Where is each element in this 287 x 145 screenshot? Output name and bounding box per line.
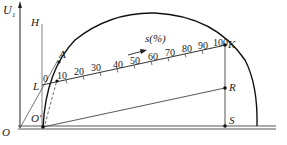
u1-subscript: 1 — [12, 11, 16, 19]
line-oprime-to-r — [43, 88, 225, 127]
tick-label-80: 80 — [182, 43, 192, 54]
baseline — [18, 126, 276, 129]
tick-label-40: 40 — [113, 59, 123, 70]
slip-scale — [42, 45, 226, 87]
point-scale-mark — [55, 79, 58, 82]
tick-label-20: 20 — [74, 66, 84, 77]
point-a — [58, 61, 61, 64]
u1-axis — [18, 1, 22, 128]
point-k — [223, 43, 227, 47]
tick-label-50: 50 — [130, 55, 140, 66]
a-label: A — [58, 48, 66, 60]
point-r — [223, 86, 227, 90]
s-label: S — [229, 114, 235, 126]
o-prime-label: O' — [31, 112, 42, 124]
dashed-line — [45, 80, 57, 124]
circle-diagram: U 1 H 0 10 20 30 40 50 60 70 80 90 100 s… — [0, 0, 287, 145]
k-label: K — [227, 38, 236, 50]
o-label: O — [2, 126, 10, 138]
h-label: H — [30, 16, 40, 28]
scale-title: s(%) — [145, 32, 166, 45]
tick-label-10: 10 — [57, 70, 67, 81]
l-label: L — [32, 80, 39, 92]
r-label: R — [228, 81, 236, 93]
tick-label-90: 90 — [198, 40, 208, 51]
point-s — [223, 124, 227, 128]
tick-label-30: 30 — [91, 62, 101, 73]
tick-label-0: 0 — [43, 73, 48, 84]
tick-label-60: 60 — [148, 51, 158, 62]
tick-label-70: 70 — [165, 47, 175, 58]
point-o-prime — [41, 125, 45, 129]
